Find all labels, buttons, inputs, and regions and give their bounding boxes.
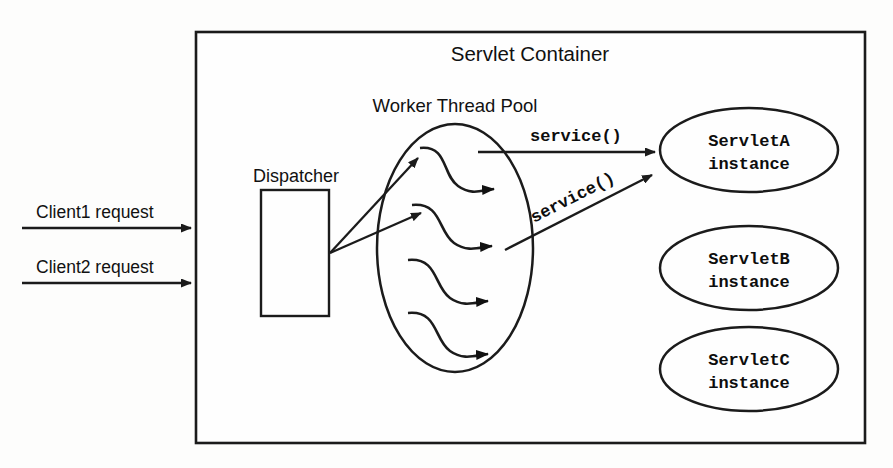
servlet-b-name: ServletB [708, 250, 790, 269]
diagram-canvas: Servlet Container Worker Thread Pool Cli… [0, 0, 893, 468]
servlet-b-node: ServletB instance [660, 226, 838, 310]
servlet-c-kind: instance [708, 374, 790, 393]
servlet-a-name: ServletA [708, 132, 790, 151]
dispatcher-label: Dispatcher [253, 166, 339, 186]
servlet-c-name: ServletC [708, 351, 790, 370]
dispatcher-box [261, 190, 329, 316]
worker-thread-pool-title: Worker Thread Pool [373, 95, 538, 116]
service-call-label-1: service() [530, 127, 622, 146]
servlet-b-kind: instance [708, 273, 790, 292]
client2-request-label: Client2 request [36, 257, 154, 277]
servlet-container-title: Servlet Container [451, 42, 610, 65]
servlet-a-node: ServletA instance [660, 108, 838, 192]
servlet-c-node: ServletC instance [660, 327, 838, 411]
servlet-a-kind: instance [708, 155, 790, 174]
client1-request-label: Client1 request [36, 202, 154, 222]
servlet-container-diagram: Servlet Container Worker Thread Pool Cli… [0, 0, 893, 468]
